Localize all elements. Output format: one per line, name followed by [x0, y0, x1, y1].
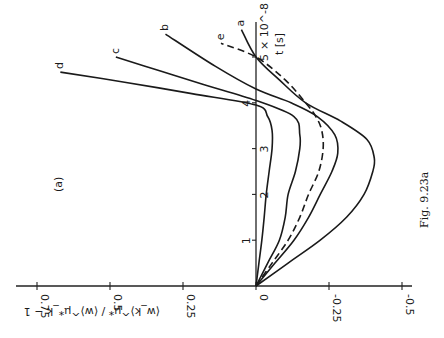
curve-b	[165, 34, 338, 286]
panel-label: (a)	[52, 177, 65, 192]
time-tick-label: 3	[258, 146, 271, 153]
time-tick-label: 2	[258, 191, 271, 198]
curve-label-d: d	[53, 62, 66, 69]
rotated-line-chart: 0.750.50.250-0.25-0.5 12345 abcde × 10^-…	[0, 0, 444, 338]
value-tick-label: 0.25	[184, 294, 197, 319]
curve-label-b: b	[158, 24, 171, 31]
time-axis-scale-label: × 10^-8	[258, 3, 271, 50]
value-tick-label: 0	[257, 294, 270, 301]
curve-c	[116, 57, 301, 286]
figure-caption: Fig. 9.23a	[418, 171, 431, 228]
value-axis-label: ⟨w_k⟩^μ* / ⟨w⟩^μ*_k − 1	[24, 305, 160, 318]
value-tick-label: -0.25	[330, 294, 343, 322]
time-tick-label: 1	[240, 237, 253, 244]
curve-label-a: a	[234, 20, 247, 27]
curves: abcde	[53, 20, 374, 286]
time-axis-label: t [s]	[273, 33, 286, 55]
curve-label-e: e	[214, 33, 227, 40]
value-tick-label: -0.5	[403, 294, 416, 315]
curve-label-c: c	[109, 48, 122, 54]
